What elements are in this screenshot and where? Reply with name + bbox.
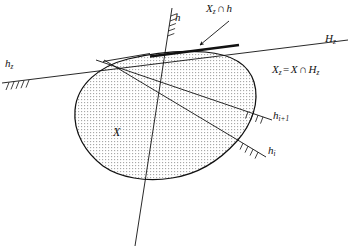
intersection-icon: ∩ bbox=[298, 63, 309, 75]
eq-rhs-base: X bbox=[291, 63, 298, 75]
label-X: X bbox=[113, 126, 120, 138]
label-equation: Xz=X∩Hz bbox=[272, 64, 319, 77]
label-hi-plus-1: hi+1 bbox=[273, 110, 289, 123]
label-hz-sub: z bbox=[11, 63, 14, 71]
label-hi1-sub: i+1 bbox=[279, 115, 290, 123]
callout-arrow bbox=[200, 21, 229, 45]
label-h-base: h bbox=[175, 11, 181, 23]
label-hi-sub: i bbox=[274, 150, 276, 158]
label-xz-cap-h: Xz∩h bbox=[206, 3, 232, 16]
label-Hz: Hz bbox=[325, 33, 336, 46]
label-Hz-sub: z bbox=[333, 38, 336, 46]
label-xz-base: X bbox=[206, 2, 213, 14]
eq-lhs-base: X bbox=[272, 63, 279, 75]
eq-rhs2-sub: z bbox=[316, 69, 319, 77]
label-hz: hz bbox=[5, 58, 13, 71]
label-h: h bbox=[175, 12, 181, 23]
label-xz-tail: h bbox=[227, 2, 233, 14]
figure-canvas: h Xz∩h Hz hz Xz=X∩Hz hi+1 hi X bbox=[0, 0, 351, 252]
diagram-svg bbox=[0, 0, 351, 252]
intersection-icon: ∩ bbox=[216, 2, 227, 14]
equals-icon: = bbox=[282, 63, 291, 75]
label-hi: hi bbox=[268, 145, 276, 158]
label-Hz-base: H bbox=[325, 32, 333, 44]
label-X-base: X bbox=[113, 125, 120, 139]
